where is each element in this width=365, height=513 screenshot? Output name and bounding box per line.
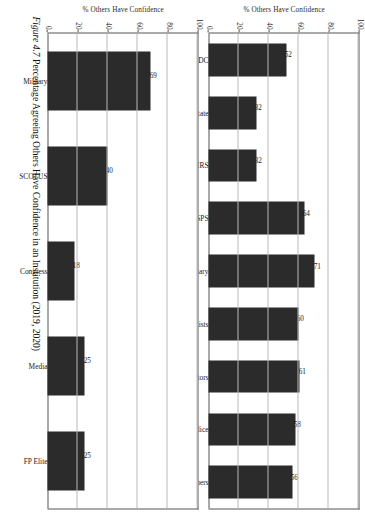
bar-item: 18 xyxy=(47,223,197,318)
bar: 69 xyxy=(47,51,151,110)
category-label: SCOTUS xyxy=(13,128,47,223)
y-tick-label: 60 xyxy=(295,22,302,29)
y-tick-label: 40 xyxy=(265,22,272,29)
bar-item: 40 xyxy=(47,128,197,223)
y-tick-column-top: 020406080100 xyxy=(208,15,359,32)
y-tick-label: 100 xyxy=(194,18,201,29)
y-tick-label: 80 xyxy=(325,22,332,29)
gridline xyxy=(267,33,268,508)
bar-item: 69 xyxy=(47,33,197,128)
bar-value-label: 25 xyxy=(83,453,90,460)
gridline xyxy=(166,33,167,508)
gridline xyxy=(106,33,107,508)
category-labels-bottom: MilitarySCOTUSCongressMediaFP Elite xyxy=(13,33,47,508)
bar-value-label: 64 xyxy=(302,211,309,218)
bar-item: 32 xyxy=(208,139,358,192)
category-label-text: FP Elite xyxy=(21,456,47,465)
bar: 32 xyxy=(208,96,256,129)
y-tick-label: 40 xyxy=(104,22,111,29)
bar-item: 25 xyxy=(47,318,197,413)
figure-plots: % Others Have Confidence 020406080100 52… xyxy=(47,0,365,513)
bar-item: 71 xyxy=(208,244,358,297)
bar-item: 64 xyxy=(208,191,358,244)
chart-panel-bottom: % Others Have Confidence 020406080100 69… xyxy=(47,4,198,509)
bar-value-label: 71 xyxy=(313,263,320,270)
y-tick-label: 20 xyxy=(74,22,81,29)
y-tick-label: 100 xyxy=(355,18,362,29)
bar-item: 58 xyxy=(208,402,358,455)
bar-value-label: 32 xyxy=(254,105,261,112)
bar-group-bottom: 6940182525 xyxy=(47,33,197,508)
y-tick-column-bottom: 020406080100 xyxy=(47,15,198,32)
gridline xyxy=(297,33,298,508)
category-label-text: SCOTUS xyxy=(17,171,47,180)
gridline xyxy=(327,33,328,508)
bar: 18 xyxy=(47,241,74,300)
bar: 60 xyxy=(208,307,298,340)
bar: 52 xyxy=(208,43,286,76)
y-tick-label: 60 xyxy=(134,22,141,29)
category-label: Media xyxy=(13,318,47,413)
bar: 56 xyxy=(208,465,292,498)
bar: 64 xyxy=(208,201,304,234)
category-label: Military xyxy=(13,33,47,128)
y-tick-label: 0 xyxy=(43,25,50,29)
bar-item: 25 xyxy=(47,413,197,508)
category-label-text: Military xyxy=(21,76,47,85)
bar-value-label: 52 xyxy=(284,52,291,59)
plot-area-bottom: 6940182525 MilitarySCOTUSCongressMediaFP… xyxy=(47,32,198,509)
bar: 71 xyxy=(208,254,315,287)
gridline xyxy=(196,33,197,508)
bar: 61 xyxy=(208,360,300,393)
gridline xyxy=(237,33,238,508)
y-axis-title-bottom: % Others Have Confidence xyxy=(47,4,198,15)
bar: 25 xyxy=(47,336,85,395)
gridline xyxy=(136,33,137,508)
bar: 58 xyxy=(208,413,295,446)
category-label: FP Elite xyxy=(13,413,47,508)
bar-item: 60 xyxy=(208,297,358,350)
bar-value-label: 25 xyxy=(83,358,90,365)
y-tick-label: 20 xyxy=(235,22,242,29)
bar: 25 xyxy=(47,431,85,490)
bar-item: 52 xyxy=(208,33,358,86)
gridline xyxy=(357,33,358,508)
category-label: Congress xyxy=(13,223,47,318)
bar-item: 32 xyxy=(208,86,358,139)
y-tick-label: 80 xyxy=(164,22,171,29)
figure-page: % Others Have Confidence 020406080100 52… xyxy=(0,0,365,513)
plot-area-top: 523232647160615856 CDCStateIRSUSPSMilita… xyxy=(208,32,359,509)
category-label-text: Congress xyxy=(17,266,47,275)
bar-item: 61 xyxy=(208,350,358,403)
bar-item: 56 xyxy=(208,455,358,508)
chart-panel-top: % Others Have Confidence 020406080100 52… xyxy=(208,4,359,509)
bar-value-label: 61 xyxy=(298,369,305,376)
bar-group-top: 523232647160615856 xyxy=(208,33,358,508)
rotated-figure-canvas: % Others Have Confidence 020406080100 52… xyxy=(0,0,365,513)
y-tick-label: 0 xyxy=(204,25,211,29)
gridline xyxy=(76,33,77,508)
bar: 32 xyxy=(208,149,256,182)
bar-value-label: 69 xyxy=(149,73,156,80)
category-label-text: Media xyxy=(26,361,47,370)
y-axis-title-top: % Others Have Confidence xyxy=(208,4,359,15)
bar-value-label: 32 xyxy=(254,158,261,165)
